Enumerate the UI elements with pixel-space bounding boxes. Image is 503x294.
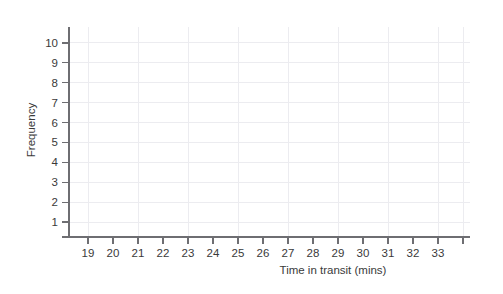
y-tick-label: 10	[45, 37, 58, 49]
x-tick-label: 25	[232, 247, 245, 259]
x-tick-label: 31	[382, 247, 395, 259]
y-tick-label: 5	[52, 136, 58, 148]
x-axis-title: Time in transit (mins)	[280, 264, 387, 276]
y-tick-label: 8	[52, 77, 58, 89]
y-tick-label: 1	[52, 216, 58, 228]
x-tick-label: 26	[257, 247, 270, 259]
x-tick-label: 22	[157, 247, 170, 259]
x-axis-tick-labels: 192021222324252627282930313233	[82, 247, 445, 259]
x-tick-label: 29	[332, 247, 345, 259]
chart-background	[0, 0, 503, 294]
y-tick-label: 2	[52, 196, 58, 208]
x-tick-label: 21	[132, 247, 145, 259]
y-tick-label: 9	[52, 57, 58, 69]
x-tick-label: 19	[82, 247, 95, 259]
y-tick-label: 3	[52, 176, 58, 188]
x-tick-label: 33	[432, 247, 445, 259]
x-tick-label: 23	[182, 247, 195, 259]
x-tick-label: 30	[357, 247, 370, 259]
x-tick-label: 20	[107, 247, 120, 259]
y-tick-label: 4	[52, 156, 59, 168]
x-tick-label: 27	[282, 247, 295, 259]
chart-container: 12345678910 1920212223242526272829303132…	[0, 0, 503, 294]
x-tick-label: 24	[207, 247, 220, 259]
x-tick-label: 32	[407, 247, 420, 259]
y-tick-label: 6	[52, 117, 58, 129]
x-tick-label: 28	[307, 247, 320, 259]
frequency-vs-time-chart: 12345678910 1920212223242526272829303132…	[0, 0, 503, 294]
y-tick-label: 7	[52, 97, 58, 109]
y-axis-title: Frequency	[25, 103, 37, 158]
